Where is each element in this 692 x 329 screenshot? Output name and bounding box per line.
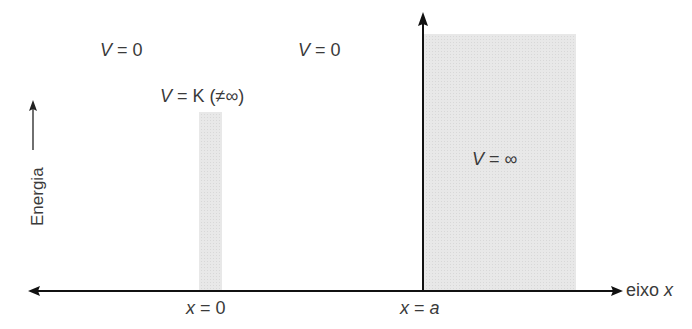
finite-barrier [199, 112, 222, 291]
wall-label: V = ∞ [472, 149, 517, 170]
region-label-left: V = 0 [100, 40, 143, 61]
region-label-middle: V = 0 [298, 40, 341, 61]
y-axis-label: Energia [28, 167, 48, 226]
wall-axis-arrow-icon [418, 12, 428, 26]
tick-label-x0: x = 0 [186, 298, 226, 319]
x-axis-label: eixo x [626, 280, 673, 301]
barrier-label: V = K (≠∞) [160, 86, 244, 107]
tick-label-xa: x = a [400, 298, 440, 319]
